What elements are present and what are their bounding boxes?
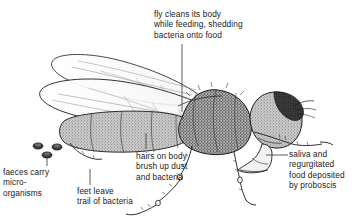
faeces-dots [33,143,62,158]
label-hairs-on-body: hairs on body brush up dust and bacteria [136,151,187,182]
abdomen [60,111,194,153]
label-faeces-carry-microorganisms: faeces carry micro- organisms [3,167,49,198]
head [250,92,316,148]
label-feet-leave-trail: feet leave trail of bacteria [77,186,133,207]
label-saliva-regurgitated-food: saliva and regurgitated food deposited b… [289,149,345,190]
label-fly-cleans-body: fly cleans its body while feeding, shedd… [154,9,243,40]
proboscis [238,144,272,173]
